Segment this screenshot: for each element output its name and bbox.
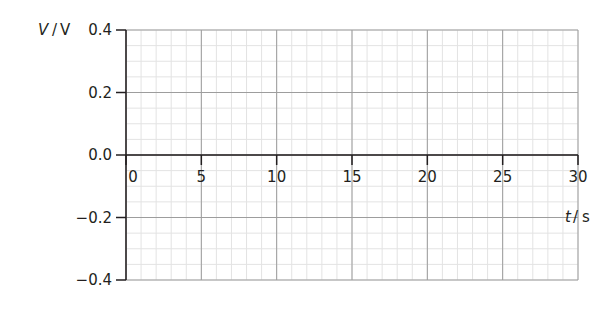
- x-tick-label: 20: [418, 168, 437, 186]
- x-tick-label: 5: [197, 168, 207, 186]
- y-tick-label: 0.4: [88, 21, 112, 39]
- x-tick-label: 10: [267, 168, 286, 186]
- x-axis-label-unit: s: [582, 208, 590, 226]
- x-tick-label: 25: [493, 168, 512, 186]
- x-tick-label: 15: [342, 168, 361, 186]
- x-tick-label: 0: [128, 168, 138, 186]
- y-tick-label: −0.4: [76, 271, 112, 289]
- y-axis-label-unit: V: [60, 21, 71, 39]
- y-tick-label: 0.2: [88, 84, 112, 102]
- voltage-time-chart: 0.40.20.0−0.2−0.4051015202530 V / V t / …: [0, 0, 606, 324]
- y-axis-label-var: V: [38, 21, 50, 39]
- y-tick-label: −0.2: [76, 209, 112, 227]
- x-tick-label: 30: [568, 168, 587, 186]
- y-axis-label-slash: /: [52, 21, 58, 39]
- y-tick-label: 0.0: [88, 146, 112, 164]
- axes: [116, 30, 578, 280]
